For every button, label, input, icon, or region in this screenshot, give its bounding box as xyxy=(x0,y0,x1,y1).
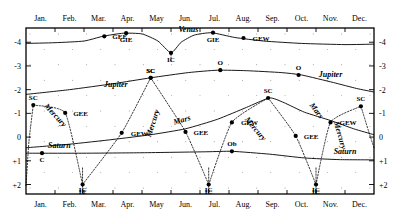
month-label-top: Oct. xyxy=(295,14,309,23)
grid-dot xyxy=(327,49,328,50)
grid-dot xyxy=(200,64,201,65)
event-point-sc xyxy=(359,104,363,108)
grid-dot xyxy=(30,64,31,65)
event-label-o: O xyxy=(218,59,224,67)
bottom-ic-label: IC xyxy=(205,186,213,194)
grid-dot xyxy=(157,172,158,173)
month-label-top: Apr. xyxy=(121,14,135,23)
grid-dot xyxy=(58,157,59,158)
event-point-ic xyxy=(169,51,173,55)
grid-dot xyxy=(86,157,87,158)
grid-dot xyxy=(370,188,371,189)
grid-dot xyxy=(185,141,186,142)
month-label-bottom: Mar. xyxy=(91,200,106,209)
event-label-sc: SC xyxy=(264,87,273,95)
month-label-top: Dec. xyxy=(352,14,367,23)
month-label-bottom: Nov. xyxy=(323,200,338,209)
month-label-top: Jul. xyxy=(209,14,220,23)
y-tick-right: -1 xyxy=(379,109,386,118)
grid-dot xyxy=(115,126,116,127)
grid-dot xyxy=(185,111,186,112)
grid-dot xyxy=(171,157,172,158)
grid-dot xyxy=(30,34,31,35)
event-point-c xyxy=(40,151,44,155)
grid-dot xyxy=(44,49,45,50)
chart-root: GEEGIEICGIEGEWSCOOCObSCGEEICGEWSCGEEICGE… xyxy=(0,0,398,219)
bottom-ic-label: IC xyxy=(79,186,87,194)
grid-dot xyxy=(171,64,172,65)
grid-dot xyxy=(143,126,144,127)
grid-dot xyxy=(86,34,87,35)
grid-dot xyxy=(72,49,73,50)
event-point-o xyxy=(297,73,301,77)
grid-dot xyxy=(44,172,45,173)
curve-label-venus: Venus xyxy=(178,25,198,34)
grid-dot xyxy=(327,111,328,112)
grid-dot xyxy=(171,126,172,127)
month-label-top: May xyxy=(149,14,164,23)
month-label-top: Sep. xyxy=(266,14,280,23)
grid-dot xyxy=(285,126,286,127)
month-label-bottom: Jan. xyxy=(34,200,47,209)
grid-dot xyxy=(341,95,342,96)
grid-dot xyxy=(30,188,31,189)
grid-dot xyxy=(86,95,87,96)
grid-dot xyxy=(228,34,229,35)
grid-dot xyxy=(86,64,87,65)
grid-dot xyxy=(270,172,271,173)
grid-dot xyxy=(86,126,87,127)
grid-dot xyxy=(355,172,356,173)
y-tick-right: -3 xyxy=(379,62,386,71)
grid-dot xyxy=(58,126,59,127)
event-label-gee: GEE xyxy=(73,110,88,118)
month-label-bottom: Aug. xyxy=(236,200,252,209)
grid-dot xyxy=(100,172,101,173)
event-label-gie: GIE xyxy=(120,36,133,44)
month-label-top: Nov. xyxy=(323,14,338,23)
month-label-bottom: Apr. xyxy=(121,200,135,209)
grid-dot xyxy=(370,64,371,65)
grid-dot xyxy=(58,95,59,96)
grid-dot xyxy=(214,172,215,173)
event-label-sc: SC xyxy=(146,67,155,75)
grid-dot xyxy=(228,64,229,65)
grid-dot xyxy=(115,95,116,96)
grid-dot xyxy=(242,49,243,50)
month-label-bottom: Sep. xyxy=(266,200,280,209)
event-point-gie xyxy=(211,31,215,35)
y-tick-left: -3 xyxy=(14,62,21,71)
grid-dot xyxy=(270,141,271,142)
grid-dot xyxy=(299,80,300,81)
month-label-bottom: Jul. xyxy=(209,200,220,209)
event-label-ic: IC xyxy=(167,56,175,64)
y-tick-left: 0 xyxy=(17,133,21,142)
grid-dot xyxy=(242,141,243,142)
grid-dot xyxy=(256,95,257,96)
grid-dot xyxy=(100,141,101,142)
month-label-bottom: Jun. xyxy=(179,200,192,209)
grid-dot xyxy=(327,141,328,142)
event-point-gee xyxy=(294,134,298,138)
grid-dot xyxy=(327,80,328,81)
event-label-sc: SC xyxy=(356,95,365,103)
grid-dot xyxy=(157,49,158,50)
grid-dot xyxy=(100,80,101,81)
grid-dot xyxy=(341,64,342,65)
event-label-gew: GEW xyxy=(253,35,270,43)
month-label-bottom: May xyxy=(149,200,164,209)
month-label-bottom: Oct. xyxy=(295,200,309,209)
grid-dot xyxy=(228,95,229,96)
grid-dot xyxy=(171,188,172,189)
grid-dot xyxy=(214,80,215,81)
grid-dot xyxy=(157,141,158,142)
grid-dot xyxy=(256,188,257,189)
grid-dot xyxy=(129,49,130,50)
grid-dot xyxy=(185,49,186,50)
y-tick-left: -4 xyxy=(14,38,21,47)
grid-dot xyxy=(370,126,371,127)
grid-dot xyxy=(370,157,371,158)
curve-label-saturn: Saturn xyxy=(48,141,71,150)
event-point-sc xyxy=(149,76,153,80)
y-tick-left: -1 xyxy=(14,109,21,118)
grid-dot xyxy=(58,64,59,65)
